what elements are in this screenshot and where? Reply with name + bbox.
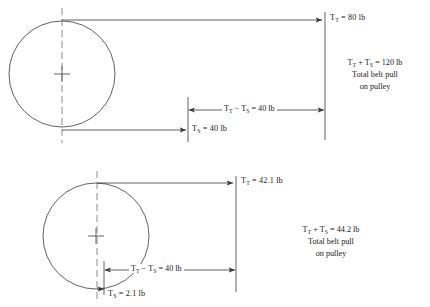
lower-slack-side-label: TS = 2.1 lb [108,289,145,299]
lower-tight-side-label: TT = 42.1 lb [241,176,283,186]
upper-slack-subscript: S [197,128,200,134]
upper-diff-subscript-1: T [229,108,233,114]
lower-sum-caption-line2: on pulley [272,248,390,260]
upper-slack-value: 40 [210,124,219,133]
lower-tight-equals: = [252,176,257,185]
belt-pull-figure: TT = 80 lb TT + TS = 120 lb Total belt p… [0,0,430,307]
upper-pulley-group [9,8,325,143]
upper-sum-plus: + [358,58,363,67]
lower-slack-subscript: S [113,293,116,299]
upper-tight-subscript: T [335,17,339,23]
lower-tight-unit: lb [276,176,283,185]
upper-sum-unit: lb [396,58,402,67]
upper-tight-unit: lb [359,13,366,22]
lower-diff-subscript-2: S [153,268,156,274]
lower-sum-subscript-2: S [325,229,328,235]
upper-slack-unit: lb [220,124,227,133]
lower-diff-unit: lb [175,264,181,273]
upper-sum-symbol-2: T [365,58,370,67]
upper-sum-value: 120 [382,58,394,67]
upper-sum-caption-line1: Total belt pull [322,69,428,81]
upper-tight-value: 80 [348,13,357,22]
upper-slack-side-label: TS = 40 lb [192,124,227,134]
upper-tight-equals: = [341,13,346,22]
upper-tight-side-label: TT = 80 lb [330,13,365,23]
lower-slack-unit: lb [139,289,146,298]
upper-diff-value: 40 [258,104,266,113]
upper-diff-unit: lb [268,104,274,113]
lower-slack-value: 2.1 [126,289,137,298]
upper-sum-equals: = [375,58,380,67]
lower-difference-label: TT − TS = 40 lb [129,264,184,273]
upper-sum-equation: TT + TS = 120 lb [322,57,428,69]
lower-tight-value: 42.1 [259,176,274,185]
lower-diff-value: 40 [165,264,173,273]
lower-sum-value: 44.2 [337,225,351,234]
lower-pulley-group [43,171,236,300]
upper-sum-subscript-1: T [353,62,357,68]
lower-sum-unit: lb [353,225,359,234]
lower-tight-subscript: T [246,180,250,186]
upper-sum-symbol-1: T [348,58,353,67]
diagram-canvas [0,0,430,307]
upper-sum-block: TT + TS = 120 lb Total belt pull on pull… [322,57,428,93]
lower-diff-subscript-1: T [136,268,140,274]
lower-diff-equals: = [158,264,163,273]
lower-sum-caption-line1: Total belt pull [272,236,390,248]
lower-sum-subscript-1: T [308,229,312,235]
upper-diff-equals: = [251,104,256,113]
upper-difference-label: TT − TS = 40 lb [222,104,277,113]
lower-diff-minus: − [142,264,147,273]
lower-slack-equals: = [119,289,124,298]
upper-diff-subscript-2: S [246,108,249,114]
upper-sum-caption-line2: on pulley [322,81,428,93]
upper-sum-subscript-2: S [370,62,373,68]
lower-sum-symbol-2: T [320,225,325,234]
lower-sum-equation: TT + TS = 44.2 lb [272,224,390,236]
upper-slack-equals: = [203,124,208,133]
lower-sum-plus: + [313,225,318,234]
lower-sum-block: TT + TS = 44.2 lb Total belt pull on pul… [272,224,390,260]
lower-center-mark [88,228,104,244]
lower-sum-equals: = [330,225,335,234]
lower-sum-symbol-1: T [303,225,308,234]
upper-diff-minus: − [235,104,240,113]
